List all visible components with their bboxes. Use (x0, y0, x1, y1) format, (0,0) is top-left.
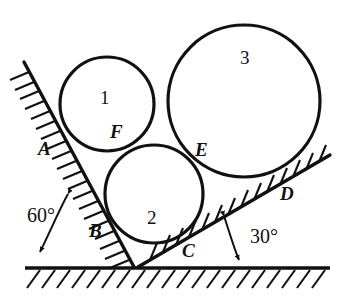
incline-right-hatching (150, 145, 326, 260)
figure-canvas (0, 0, 346, 301)
angle-right-label: 30° (250, 226, 278, 246)
ground-hatching (27, 270, 325, 288)
point-A-label: A (38, 139, 51, 158)
angle-right-indicator (224, 216, 239, 260)
point-E-label: E (195, 140, 208, 159)
incline-right-line (138, 155, 330, 267)
ground-surface (25, 268, 330, 288)
mechanics-figure: 1 2 3 A B C D E F 60° 30° (0, 0, 346, 301)
circle-1-label: 1 (100, 88, 110, 107)
point-C-label: C (182, 241, 195, 260)
point-B-label: B (89, 221, 102, 240)
incline-left-line (24, 62, 134, 267)
angle-left-label: 60° (27, 205, 55, 225)
point-F-label: F (110, 122, 123, 141)
circle-3-label: 3 (240, 48, 250, 67)
circle-2-label: 2 (147, 208, 157, 227)
point-D-label: D (280, 184, 294, 203)
angle-right-arc (224, 216, 239, 260)
circle-2 (105, 145, 203, 243)
